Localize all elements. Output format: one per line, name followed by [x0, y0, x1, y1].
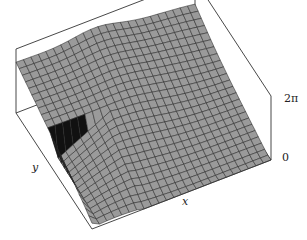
x-axis-label: x — [182, 195, 188, 208]
z-tick-0: 0 — [282, 151, 289, 164]
surface-plot — [0, 0, 307, 240]
z-tick-2pi: 2π — [284, 92, 298, 105]
y-axis-label: y — [32, 161, 38, 174]
